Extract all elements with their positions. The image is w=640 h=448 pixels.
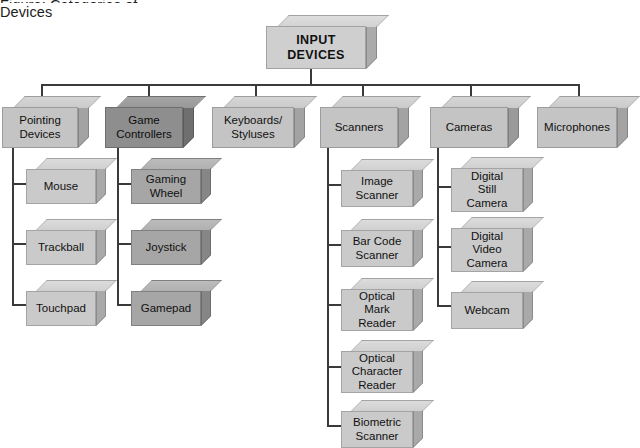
node-optical-character-reader[interactable]: Optical Character Reader	[341, 340, 413, 393]
box-top-face	[141, 158, 222, 169]
node-gamepad[interactable]: Gamepad	[131, 280, 201, 326]
node-label: Joystick	[144, 241, 189, 255]
node-label: Touchpad	[34, 302, 88, 316]
node-label: Image Scanner	[354, 175, 401, 202]
box-top-face	[141, 219, 222, 230]
connector-spine-cameras	[437, 140, 439, 306]
node-biometric-scanner[interactable]: Biometric Scanner	[341, 400, 413, 448]
connector-stub-optical-character-reader	[327, 366, 341, 368]
node-label: Scanners	[333, 121, 386, 135]
connector-stub-gamepad	[117, 304, 131, 306]
box-top-face	[36, 219, 117, 230]
node-face: Optical Character Reader	[341, 351, 413, 393]
node-optical-mark-reader[interactable]: Optical Mark Reader	[341, 278, 413, 331]
node-label: Gamepad	[139, 302, 194, 316]
node-label: Digital Still Camera	[465, 170, 510, 211]
connector-stub-webcam	[437, 305, 451, 307]
node-face: Webcam	[451, 292, 523, 329]
node-game-controllers[interactable]: Game Controllers	[105, 96, 183, 148]
node-label: Bar Code Scanner	[351, 235, 404, 262]
box-top-face	[36, 158, 117, 169]
node-image-scanner[interactable]: Image Scanner	[341, 159, 413, 207]
node-face: Touchpad	[26, 291, 96, 326]
figure-caption: Figure: Categories of Input Devices	[0, 0, 150, 21]
connector-spine-pointing-devices	[12, 140, 14, 306]
connector-stub-bar-code-scanner	[327, 244, 341, 246]
node-face: Cameras	[430, 107, 508, 148]
node-face: Scanners	[320, 107, 398, 148]
node-face: Keyboards/ Styluses	[212, 107, 294, 148]
figure-caption-line: Devices	[0, 4, 52, 20]
node-keyboards-styluses[interactable]: Keyboards/ Styluses	[212, 96, 294, 148]
node-label: Webcam	[462, 304, 511, 318]
node-face: Joystick	[131, 230, 201, 265]
connector-level2-bus	[41, 84, 579, 86]
box-top-face	[351, 219, 434, 230]
connector-stub-image-scanner	[327, 184, 341, 186]
node-input-devices[interactable]: INPUT DEVICES	[266, 15, 366, 69]
box-top-face	[141, 280, 222, 291]
node-label: Biometric Scanner	[351, 416, 403, 443]
connector-stub-digital-video-camera	[437, 246, 451, 248]
node-bar-code-scanner[interactable]: Bar Code Scanner	[341, 219, 413, 267]
node-scanners[interactable]: Scanners	[320, 96, 398, 148]
node-face: Bar Code Scanner	[341, 230, 413, 267]
node-face: Gamepad	[131, 291, 201, 326]
connector-stub-gaming-wheel	[117, 183, 131, 185]
node-label: Trackball	[36, 241, 86, 255]
node-face: Image Scanner	[341, 170, 413, 207]
node-face: Gaming Wheel	[131, 169, 201, 204]
node-digital-video-camera[interactable]: Digital Video Camera	[451, 217, 523, 272]
node-label: Mouse	[42, 180, 81, 194]
node-label: Cameras	[444, 121, 495, 135]
connector-spine-scanners	[327, 140, 329, 426]
connector-stub-touchpad	[12, 304, 26, 306]
connector-spine-game-controllers	[117, 140, 119, 306]
node-face: Pointing Devices	[2, 107, 78, 148]
box-top-face	[36, 280, 117, 291]
node-label: Game Controllers	[114, 114, 174, 141]
node-cameras[interactable]: Cameras	[430, 96, 508, 148]
node-label: Optical Mark Reader	[356, 290, 398, 331]
box-top-face	[351, 278, 434, 289]
box-top-face	[351, 400, 434, 411]
box-top-face	[351, 159, 434, 170]
node-webcam[interactable]: Webcam	[451, 281, 523, 329]
node-face: Trackball	[26, 230, 96, 265]
box-top-face	[461, 281, 544, 292]
node-label: Optical Character Reader	[350, 352, 405, 393]
node-pointing-devices[interactable]: Pointing Devices	[2, 96, 78, 148]
connector-root-stem	[310, 68, 312, 85]
node-face: Digital Still Camera	[451, 168, 523, 212]
node-label: Microphones	[542, 121, 612, 135]
node-face: Biometric Scanner	[341, 411, 413, 448]
connector-stub-trackball	[12, 243, 26, 245]
node-face: Optical Mark Reader	[341, 289, 413, 331]
node-label: Gaming Wheel	[144, 173, 188, 200]
connector-stub-biometric-scanner	[327, 425, 341, 427]
node-joystick[interactable]: Joystick	[131, 219, 201, 265]
node-label: INPUT DEVICES	[285, 33, 347, 62]
node-mouse[interactable]: Mouse	[26, 158, 96, 204]
node-label: Digital Video Camera	[465, 230, 510, 271]
node-trackball[interactable]: Trackball	[26, 219, 96, 265]
connector-stub-digital-still-camera	[437, 186, 451, 188]
node-label: Keyboards/ Styluses	[222, 114, 284, 141]
connector-stub-joystick	[117, 243, 131, 245]
figure-caption-clipped-line: Figure: Categories of Input	[0, 0, 150, 3]
node-face: INPUT DEVICES	[266, 26, 366, 69]
connector-stub-mouse	[12, 183, 26, 185]
node-gaming-wheel[interactable]: Gaming Wheel	[131, 158, 201, 204]
node-touchpad[interactable]: Touchpad	[26, 280, 96, 326]
node-face: Game Controllers	[105, 107, 183, 148]
box-top-face	[461, 157, 544, 168]
node-digital-still-camera[interactable]: Digital Still Camera	[451, 157, 523, 212]
box-top-face	[351, 340, 434, 351]
connector-stub-optical-mark-reader	[327, 304, 341, 306]
node-face: Mouse	[26, 169, 96, 204]
box-top-face	[461, 217, 544, 228]
node-label: Pointing Devices	[17, 114, 63, 141]
node-face: Digital Video Camera	[451, 228, 523, 272]
node-microphones[interactable]: Microphones	[537, 96, 617, 148]
